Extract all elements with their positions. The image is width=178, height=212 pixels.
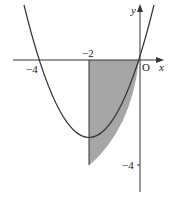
origin-label: O xyxy=(142,61,150,73)
y-axis-label: y xyxy=(130,4,136,16)
y-axis-arrow-icon xyxy=(137,4,143,12)
tick-label-x-neg2: −2 xyxy=(82,47,94,59)
parabola-diagram: y x O −4 −2 −4 xyxy=(0,0,178,212)
tick-label-y-neg4: −4 xyxy=(122,159,134,171)
shaded-region-fill xyxy=(89,60,139,165)
x-axis-label: x xyxy=(158,61,164,73)
tick-label-x-neg4: −4 xyxy=(26,63,38,75)
